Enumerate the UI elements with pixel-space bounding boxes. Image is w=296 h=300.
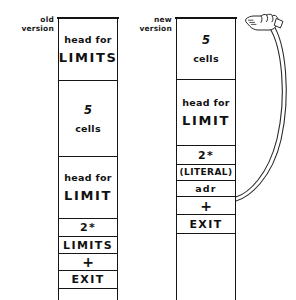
new-cell-5-cells: 5 cells bbox=[177, 17, 235, 79]
cell-line1: + bbox=[200, 199, 212, 213]
cell-line2: LIMITS bbox=[59, 50, 117, 66]
curved-arrow-icon bbox=[236, 23, 286, 201]
new-version-label-line2: version bbox=[126, 24, 172, 33]
old-cell-head-limit: head for LIMIT bbox=[59, 156, 117, 218]
cell-line1: head for bbox=[182, 96, 229, 109]
new-cell-2star: 2* bbox=[177, 145, 235, 164]
old-cell-head-limits: head for LIMITS bbox=[59, 17, 117, 80]
cell-line1: EXIT bbox=[71, 273, 104, 286]
cell-line1: adr bbox=[195, 183, 217, 194]
old-version-stack: head for LIMITS 5 cells head for LIMIT 2… bbox=[58, 17, 118, 300]
old-cell-limits: LIMITS bbox=[59, 236, 117, 253]
cell-line2: cells bbox=[75, 122, 101, 135]
cell-line2: cells bbox=[193, 52, 219, 65]
new-version-label: new version bbox=[126, 15, 172, 33]
cell-line1: 5 bbox=[202, 33, 210, 48]
cell-line1: (LITERAL) bbox=[180, 167, 233, 178]
old-cell-exit: EXIT bbox=[59, 270, 117, 288]
old-cell-plus: + bbox=[59, 253, 117, 270]
new-version-label-line1: new bbox=[126, 15, 172, 24]
cell-line1: head for bbox=[64, 171, 111, 184]
old-version-label-line2: version bbox=[6, 24, 54, 33]
old-version-label-line1: old bbox=[6, 15, 54, 24]
old-cell-2star: 2* bbox=[59, 218, 117, 236]
diagram-canvas: old version head for LIMITS 5 cells head… bbox=[0, 0, 296, 300]
old-cell-5-cells: 5 cells bbox=[59, 80, 117, 156]
cell-line1: LIMITS bbox=[63, 239, 113, 252]
new-version-stack: 5 cells head for LIMIT 2* (LITERAL) adr … bbox=[176, 17, 236, 300]
cell-line1: head for bbox=[64, 33, 111, 46]
new-cell-literal: (LITERAL) bbox=[177, 164, 235, 180]
old-version-label: old version bbox=[6, 15, 54, 33]
cell-line2: LIMIT bbox=[64, 188, 112, 204]
new-cell-head-limit: head for LIMIT bbox=[177, 79, 235, 145]
cell-line1: 2* bbox=[80, 221, 96, 234]
cell-line1: EXIT bbox=[189, 218, 222, 231]
new-stack-open-tail bbox=[177, 233, 235, 246]
annotation-layer bbox=[0, 0, 296, 300]
cell-line2: LIMIT bbox=[182, 113, 230, 129]
old-stack-open-tail bbox=[59, 288, 117, 300]
new-cell-exit: EXIT bbox=[177, 214, 235, 233]
cell-line1: 2* bbox=[198, 149, 214, 162]
new-cell-adr: adr bbox=[177, 180, 235, 196]
cell-line1: 5 bbox=[84, 103, 92, 118]
cell-line1: + bbox=[82, 255, 94, 269]
new-cell-plus: + bbox=[177, 196, 235, 214]
pointing-hand-icon bbox=[246, 14, 283, 30]
